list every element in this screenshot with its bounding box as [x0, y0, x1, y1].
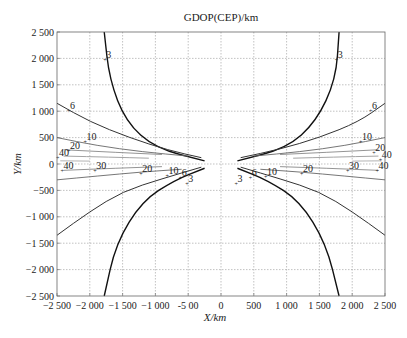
chart-title: GDOP(CEP)/km: [184, 11, 259, 24]
y-tick-label: −2 500: [26, 291, 54, 302]
x-tick-label: −1 000: [141, 300, 169, 311]
y-tick-label: −1 500: [26, 238, 54, 249]
gdop-contour-chart: GDOP(CEP)/km 3+3+6+6+10+10+20+20+40+40+4…: [0, 0, 407, 338]
contour-line-3: [237, 32, 339, 161]
contour-line-3: [104, 168, 204, 296]
x-axis-label: X/km: [203, 311, 227, 323]
y-tick-label: 500: [39, 132, 54, 143]
y-tick-label: 1 000: [32, 106, 55, 117]
y-tick-label: 2 500: [32, 27, 55, 38]
x-tick-label: 0: [219, 300, 224, 311]
contour-label-marker: +: [375, 168, 379, 174]
x-tick-label: 2 500: [374, 300, 397, 311]
contour-line-3: [104, 32, 204, 161]
contour-label-marker: +: [372, 150, 376, 156]
y-axis-label: Y/km: [11, 153, 23, 175]
contour-label: 30: [349, 160, 359, 171]
x-tick-label: −2 000: [76, 300, 104, 311]
contour-label-marker: +: [369, 108, 373, 114]
contour-label-marker: +: [335, 57, 339, 63]
y-tick-label: −2 000: [26, 264, 54, 275]
y-tick-label: 2 000: [32, 53, 55, 64]
y-tick-label: −500: [33, 185, 54, 196]
contour-line-30: [64, 156, 149, 158]
contour-label: 20: [303, 163, 313, 174]
contour-label: 10: [87, 131, 97, 142]
contour-label: 6: [252, 167, 257, 178]
contour-label: 30: [96, 160, 106, 171]
contour-label-marker: +: [93, 168, 97, 174]
contour-label: 10: [362, 131, 372, 142]
y-tick-label: 1 500: [32, 79, 55, 90]
x-tick-label: 500: [246, 300, 261, 311]
contour-label: 6: [182, 167, 187, 178]
contour-label: 6: [70, 100, 75, 111]
contour-label: 3: [106, 49, 111, 60]
x-tick-label: −1 500: [109, 300, 137, 311]
contour-label: 10: [267, 166, 277, 177]
contour-label: 3: [237, 173, 242, 184]
contour-label: 10: [169, 165, 179, 176]
x-tick-label: -5 00: [178, 300, 199, 311]
x-tick-label: −2 500: [43, 300, 71, 311]
y-axis-ticks: 2 5002 0001 5001 0005000−500−1 000−1 500…: [26, 27, 60, 302]
contour-label: 20: [142, 163, 152, 174]
contour-line-30: [293, 156, 378, 158]
contour-line-3: [237, 168, 339, 296]
contour-labels: 3+3+6+6+10+10+20+20+40+40+40+40+30+30+20…: [56, 49, 392, 187]
y-tick-label: 0: [49, 159, 54, 170]
contour-label: 3: [338, 49, 343, 60]
contour-label: 40: [59, 147, 69, 158]
contour-label: 20: [70, 140, 80, 151]
x-tick-label: 2 000: [341, 300, 364, 311]
contour-label-marker: +: [84, 139, 88, 145]
contour-label: 3: [188, 173, 193, 184]
contour-label: 40: [64, 160, 74, 171]
y-tick-label: −1 000: [26, 211, 54, 222]
contour-label: 40: [382, 149, 392, 160]
contour-line-20: [280, 167, 378, 171]
x-tick-label: 1 000: [275, 300, 298, 311]
contour-label: 6: [372, 100, 377, 111]
contour-label-marker: +: [249, 175, 253, 181]
contour-label: 40: [378, 160, 388, 171]
x-tick-label: 1 500: [308, 300, 331, 311]
contour-label-marker: +: [166, 173, 170, 179]
